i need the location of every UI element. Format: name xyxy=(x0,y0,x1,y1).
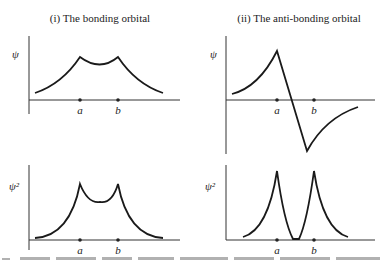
nucleus-a-marker xyxy=(275,238,279,242)
y-label-psi: ψ xyxy=(210,48,217,60)
orbital-diagram: (i) The bonding orbital (ii) The anti-bo… xyxy=(0,0,386,261)
nucleus-a-marker xyxy=(275,98,279,102)
y-label-psi: ψ xyxy=(12,48,19,60)
tick-a: a xyxy=(274,244,280,256)
tick-b: b xyxy=(115,244,121,256)
bonding-psi2-curve xyxy=(35,184,163,238)
bonding-psi2-plot: ψ² a b xyxy=(9,165,180,256)
nucleus-a-marker xyxy=(78,98,82,102)
caption-fragment xyxy=(2,257,380,260)
tick-a: a xyxy=(77,244,83,256)
title-bonding: (i) The bonding orbital xyxy=(50,12,150,25)
tick-a: a xyxy=(274,104,280,116)
tick-b: b xyxy=(311,244,317,256)
antibonding-psi2-plot: ψ² a b xyxy=(205,165,375,256)
nucleus-b-marker xyxy=(116,238,120,242)
nucleus-b-marker xyxy=(116,98,120,102)
bonding-psi-curve xyxy=(35,57,163,93)
nucleus-a-marker xyxy=(78,238,82,242)
antibonding-psi2-curve xyxy=(243,171,348,239)
nucleus-b-marker xyxy=(312,98,316,102)
nucleus-b-marker xyxy=(312,238,316,242)
tick-b: b xyxy=(115,104,121,116)
y-label-psi-squared: ψ² xyxy=(205,180,216,192)
title-antibonding: (ii) The anti-bonding orbital xyxy=(237,12,361,25)
tick-b: b xyxy=(311,104,317,116)
antibonding-psi-curve xyxy=(232,51,358,151)
antibonding-psi-plot: ψ a b xyxy=(210,36,375,154)
tick-a: a xyxy=(77,104,83,116)
y-label-psi-squared: ψ² xyxy=(9,180,20,192)
bonding-psi-plot: ψ a b xyxy=(12,36,180,116)
